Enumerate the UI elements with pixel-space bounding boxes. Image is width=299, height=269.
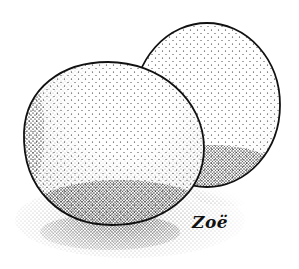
artist-signature: Zoë xyxy=(192,212,228,232)
illustration-canvas: Zoë xyxy=(0,0,299,269)
eggs-drawing xyxy=(0,0,299,269)
